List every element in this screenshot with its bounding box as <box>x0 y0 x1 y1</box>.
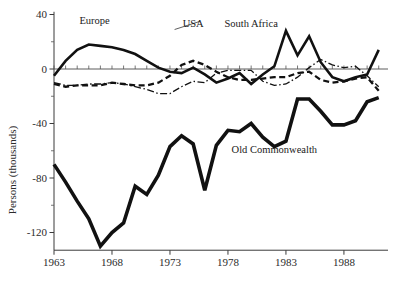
x-tick-label: 1973 <box>159 256 182 268</box>
series-annotations: EuropeUSASouth AfricaOld Commonwealth <box>79 15 317 155</box>
series-line-europe <box>54 31 379 84</box>
x-axis: 196319681973197819831988 <box>43 250 388 268</box>
y-tick-label: 0 <box>42 63 48 75</box>
y-axis: 400-40-80-120 <box>27 8 54 250</box>
x-tick-label: 1978 <box>217 256 240 268</box>
chart-container: Persons (thousands) 400-40-80-120 196319… <box>0 0 400 287</box>
series-label-south-africa: South Africa <box>224 18 278 29</box>
series-label-usa: USA <box>183 18 204 29</box>
series-lines <box>54 31 379 246</box>
x-tick-label: 1968 <box>101 256 124 268</box>
series-label-old-commonwealth: Old Commonwealth <box>232 144 318 155</box>
migration-line-chart: Persons (thousands) 400-40-80-120 196319… <box>0 0 400 287</box>
x-tick-label: 1988 <box>333 256 356 268</box>
x-tick-label: 1983 <box>275 256 298 268</box>
y-axis-title: Persons (thousands) <box>6 126 19 215</box>
x-tick-label: 1963 <box>43 256 66 268</box>
series-line-old-commonwealth <box>54 98 379 247</box>
y-tick-label: -120 <box>27 226 48 238</box>
y-axis-title-group: Persons (thousands) <box>6 126 19 215</box>
y-tick-label: -40 <box>32 117 47 129</box>
series-line-south-africa <box>54 59 379 93</box>
y-tick-label: -80 <box>32 172 47 184</box>
series-label-europe: Europe <box>79 15 110 26</box>
y-tick-label: 40 <box>36 8 48 20</box>
